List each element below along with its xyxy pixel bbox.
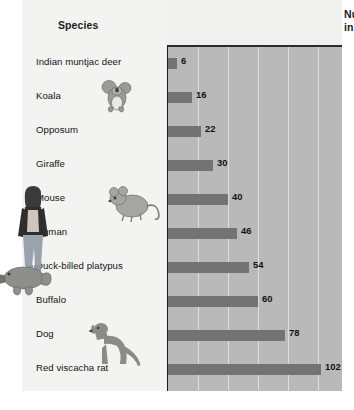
bar xyxy=(168,160,213,171)
bar-value-label: 78 xyxy=(289,327,299,338)
species-label: Duck-billed platypus xyxy=(36,260,123,271)
bar-value-label: 54 xyxy=(253,259,263,270)
bar-value-label: 46 xyxy=(241,225,251,236)
bar xyxy=(168,92,192,103)
bar-value-label: 6 xyxy=(181,55,186,66)
species-label: Dog xyxy=(36,328,54,339)
species-row: Giraffe xyxy=(22,149,168,183)
bar-row: 102 xyxy=(168,353,342,387)
chromosomes-header-line2: in body cells xyxy=(344,21,354,33)
bar-row: 6 xyxy=(168,47,342,81)
bar-value-label: 16 xyxy=(196,89,206,100)
species-column-header: Species xyxy=(58,19,98,31)
bar xyxy=(168,194,228,205)
species-label: Red viscacha rat xyxy=(36,362,108,373)
bar-row: 78 xyxy=(168,319,342,353)
bar-value-label: 22 xyxy=(205,123,215,134)
species-label: Buffalo xyxy=(36,294,66,305)
species-row: Indian muntjac deer xyxy=(22,47,168,81)
bar xyxy=(168,58,177,69)
species-label: Mouse xyxy=(36,192,65,203)
bar-row: 22 xyxy=(168,115,342,149)
species-row: Red viscacha rat xyxy=(22,353,168,387)
species-header-cell: Species xyxy=(22,0,168,47)
species-label: Human xyxy=(36,226,67,237)
bar xyxy=(168,364,321,375)
bar xyxy=(168,330,285,341)
species-row: Buffalo xyxy=(22,285,168,319)
bar-row: 60 xyxy=(168,285,342,319)
bar-row: 40 xyxy=(168,183,342,217)
bar-chart-plot-area: 61622304046546078102 xyxy=(168,47,342,391)
species-label: Giraffe xyxy=(36,158,65,169)
bar xyxy=(168,296,258,307)
bar xyxy=(168,126,201,137)
bar xyxy=(168,228,237,239)
bar-value-label: 60 xyxy=(262,293,272,304)
species-label: Indian muntjac deer xyxy=(36,56,121,67)
species-column: Indian muntjac deerKoalaOpposumGiraffeMo… xyxy=(22,47,168,391)
species-row: Mouse xyxy=(22,183,168,217)
species-label: Opposum xyxy=(36,124,78,135)
species-row: Opposum xyxy=(22,115,168,149)
species-row: Duck-billed platypus xyxy=(22,251,168,285)
bar-row: 46 xyxy=(168,217,342,251)
bar-value-label: 30 xyxy=(217,157,227,168)
bar-value-label: 102 xyxy=(325,361,341,372)
species-row: Koala xyxy=(22,81,168,115)
chromosomes-header-cell: Number of chromosomes in body cells xyxy=(168,0,342,45)
bar-row: 30 xyxy=(168,149,342,183)
species-label: Koala xyxy=(36,90,61,101)
bar-value-label: 40 xyxy=(232,191,242,202)
species-row: Dog xyxy=(22,319,168,353)
bar-row: 54 xyxy=(168,251,342,285)
bar-row: 16 xyxy=(168,81,342,115)
chromosomes-header-line1: Number of chromosomes xyxy=(344,8,354,20)
bar xyxy=(168,262,249,273)
chromosome-count-chart-figure: Species Number of chromosomes in body ce… xyxy=(0,0,354,410)
chromosomes-column-header: Number of chromosomes in body cells xyxy=(344,8,354,33)
chart-header: Species Number of chromosomes in body ce… xyxy=(0,0,354,47)
species-row: Human xyxy=(22,217,168,251)
